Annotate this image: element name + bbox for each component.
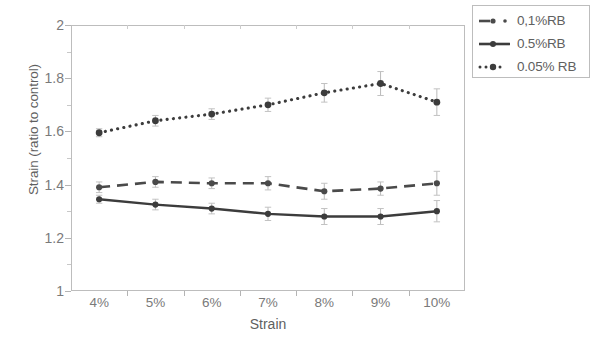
legend-swatch-solid-icon bbox=[478, 37, 514, 51]
chart-legend: 0,1%RB 0.5%RB 0.05% RB bbox=[472, 5, 590, 78]
legend-item-1[interactable]: 0.5%RB bbox=[473, 32, 589, 55]
series-2 bbox=[96, 72, 441, 137]
data-point bbox=[377, 185, 383, 191]
data-point bbox=[321, 188, 327, 194]
data-point bbox=[321, 89, 328, 96]
y-major-tick bbox=[65, 185, 71, 186]
series-1 bbox=[96, 195, 440, 224]
series-0 bbox=[96, 171, 440, 199]
data-point bbox=[152, 201, 158, 207]
data-point bbox=[152, 179, 158, 185]
data-point bbox=[377, 80, 384, 87]
data-point bbox=[209, 180, 215, 186]
data-point bbox=[434, 180, 440, 186]
data-point bbox=[433, 99, 440, 106]
data-point bbox=[96, 184, 102, 190]
y-minor-tick bbox=[67, 158, 71, 159]
y-major-tick bbox=[65, 291, 71, 292]
y-minor-tick bbox=[67, 105, 71, 106]
legend-swatch-dashed-icon bbox=[478, 14, 514, 28]
data-point bbox=[208, 111, 215, 118]
y-minor-tick bbox=[67, 264, 71, 265]
legend-item-0[interactable]: 0,1%RB bbox=[473, 9, 589, 32]
legend-item-2[interactable]: 0.05% RB bbox=[473, 55, 589, 78]
data-point bbox=[434, 208, 440, 214]
data-point bbox=[265, 101, 272, 108]
y-major-tick bbox=[65, 238, 71, 239]
y-major-tick bbox=[65, 25, 71, 26]
y-major-tick bbox=[65, 78, 71, 79]
data-point bbox=[321, 213, 327, 219]
y-minor-tick bbox=[67, 52, 71, 53]
y-minor-tick bbox=[67, 211, 71, 212]
legend-label-0: 0,1%RB bbox=[517, 13, 565, 28]
data-point bbox=[96, 129, 103, 136]
data-point bbox=[265, 211, 271, 217]
y-major-tick bbox=[65, 131, 71, 132]
data-point bbox=[209, 205, 215, 211]
data-point bbox=[265, 180, 271, 186]
data-point bbox=[152, 117, 159, 124]
data-point bbox=[96, 196, 102, 202]
data-point bbox=[377, 213, 383, 219]
legend-label-1: 0.5%RB bbox=[517, 36, 565, 51]
legend-swatch-dotted-icon bbox=[478, 60, 514, 74]
legend-label-2: 0.05% RB bbox=[517, 59, 576, 74]
